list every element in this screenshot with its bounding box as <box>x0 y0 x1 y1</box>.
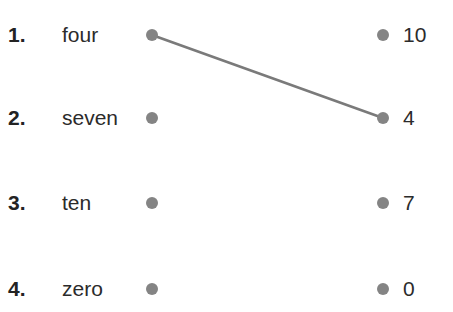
row-value-2: 4 <box>403 96 415 140</box>
left-connector-dot-4[interactable] <box>146 283 158 295</box>
row-word-3: ten <box>62 181 91 225</box>
row-value-1: 10 <box>403 13 426 57</box>
row-value-3: 7 <box>403 181 415 225</box>
row-word-2: seven <box>62 96 118 140</box>
right-connector-dot-1[interactable] <box>377 29 389 41</box>
row-value-4: 0 <box>403 267 415 311</box>
match-row-2: 2. seven 4 <box>0 96 453 140</box>
row-number-1: 1. <box>8 13 48 57</box>
match-row-3: 3. ten 7 <box>0 181 453 225</box>
row-number-3: 3. <box>8 181 48 225</box>
matching-exercise: 1. four 10 2. seven 4 3. ten 7 4. zero 0 <box>0 0 453 312</box>
right-connector-dot-3[interactable] <box>377 197 389 209</box>
row-number-4: 4. <box>8 267 48 311</box>
left-connector-dot-2[interactable] <box>146 112 158 124</box>
row-number-2: 2. <box>8 96 48 140</box>
left-connector-dot-3[interactable] <box>146 197 158 209</box>
row-word-1: four <box>62 13 98 57</box>
right-connector-dot-4[interactable] <box>377 283 389 295</box>
match-row-1: 1. four 10 <box>0 13 453 57</box>
row-word-4: zero <box>62 267 103 311</box>
right-connector-dot-2[interactable] <box>377 112 389 124</box>
left-connector-dot-1[interactable] <box>146 29 158 41</box>
match-row-4: 4. zero 0 <box>0 267 453 311</box>
